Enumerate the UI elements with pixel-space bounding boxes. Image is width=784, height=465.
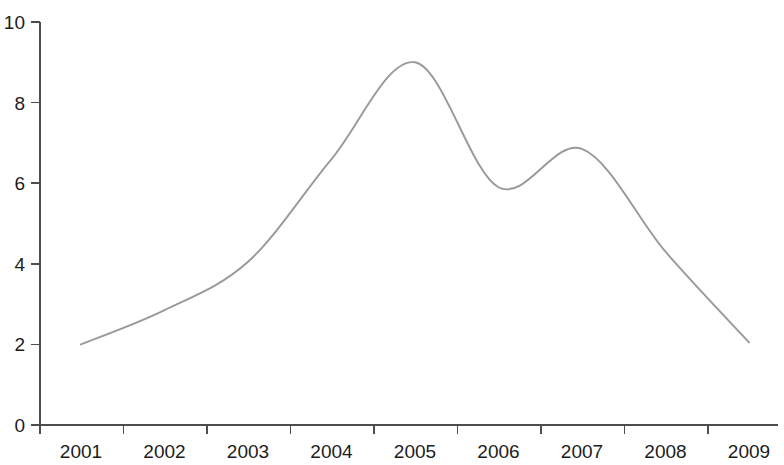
y-tick-label: 10 (4, 12, 25, 33)
y-tick-label: 8 (14, 93, 25, 114)
y-tick-label: 4 (14, 254, 25, 275)
x-tick-label: 2001 (60, 441, 102, 462)
chart-canvas: 0246810 20012002200320042005200620072008… (0, 0, 784, 465)
chart-background (0, 0, 784, 465)
x-tick-label: 2007 (561, 441, 603, 462)
x-tick-label: 2008 (644, 441, 686, 462)
y-tick-label: 6 (14, 173, 25, 194)
x-tick-label: 2003 (227, 441, 269, 462)
x-tick-label: 2005 (394, 441, 436, 462)
x-tick-label: 2004 (310, 441, 353, 462)
y-tick-label: 0 (14, 415, 25, 436)
x-tick-label: 2006 (477, 441, 519, 462)
x-tick-label: 2002 (143, 441, 185, 462)
x-tick-label: 2009 (728, 441, 770, 462)
y-tick-label: 2 (14, 334, 25, 355)
line-chart-figure: 0246810 20012002200320042005200620072008… (0, 0, 784, 465)
x-axis-tick-labels: 200120022003200420052006200720082009 (60, 441, 770, 462)
